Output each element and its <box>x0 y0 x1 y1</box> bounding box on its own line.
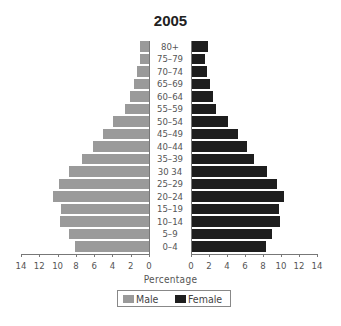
population-pyramid-chart: 2005 80+75–7970–7465–6960–6455–5950–5445… <box>0 0 341 326</box>
legend-label-female: Female <box>188 293 222 305</box>
bar-female <box>191 241 266 252</box>
x-tick <box>149 254 150 257</box>
bar-female <box>191 104 216 115</box>
age-group-label: 45–49 <box>149 128 191 140</box>
x-tick-label: 12 <box>289 260 309 271</box>
bar-male <box>69 166 149 177</box>
legend-label-male: Male <box>136 293 158 305</box>
x-tick <box>94 254 95 257</box>
bar-male <box>140 54 149 65</box>
bar-female <box>191 191 284 202</box>
bar-female <box>191 166 267 177</box>
x-tick <box>227 254 228 257</box>
zero-axis-line <box>191 41 192 254</box>
x-tick-label: 0 <box>181 260 201 271</box>
age-group-label: 80+ <box>149 41 191 53</box>
x-tick-label: 14 <box>11 260 31 271</box>
bar-male <box>69 229 149 240</box>
x-axis-label: Percentage <box>0 274 341 285</box>
bar-male <box>93 141 149 152</box>
x-tick-label: 4 <box>102 260 122 271</box>
bar-female <box>191 229 272 240</box>
x-tick-label: 8 <box>253 260 273 271</box>
age-group-label: 20–24 <box>149 191 191 203</box>
bar-male <box>60 216 149 227</box>
bar-male <box>130 91 149 102</box>
x-tick <box>58 254 59 257</box>
x-tick-label: 4 <box>217 260 237 271</box>
bar-male <box>59 179 149 190</box>
age-group-label: 30 34 <box>149 166 191 178</box>
age-group-label: 50–54 <box>149 116 191 128</box>
bar-female <box>191 116 228 127</box>
x-tick <box>281 254 282 257</box>
age-group-label: 15–19 <box>149 203 191 215</box>
bar-female <box>191 91 213 102</box>
bar-female <box>191 179 277 190</box>
bar-female <box>191 204 279 215</box>
x-tick <box>263 254 264 257</box>
x-tick <box>112 254 113 257</box>
bar-male <box>82 154 149 165</box>
age-group-label: 70–74 <box>149 66 191 78</box>
legend-item-female: Female <box>175 293 222 305</box>
bar-male <box>61 204 149 215</box>
bar-female <box>191 141 247 152</box>
x-tick <box>317 254 318 257</box>
female-swatch-icon <box>175 295 186 303</box>
bar-female <box>191 79 210 90</box>
x-tick-label: 10 <box>48 260 68 271</box>
zero-axis-line <box>149 41 150 254</box>
x-tick-label: 2 <box>121 260 141 271</box>
bar-female <box>191 154 254 165</box>
bar-male <box>137 66 149 77</box>
bar-female <box>191 66 207 77</box>
x-tick-label: 6 <box>235 260 255 271</box>
x-tick <box>209 254 210 257</box>
age-group-label: 0–4 <box>149 241 191 253</box>
x-tick-label: 0 <box>139 260 159 271</box>
age-group-label: 10–14 <box>149 216 191 228</box>
bar-female <box>191 41 208 52</box>
x-tick-label: 10 <box>271 260 291 271</box>
x-tick <box>245 254 246 257</box>
age-group-label: 60–64 <box>149 91 191 103</box>
x-tick <box>131 254 132 257</box>
legend-item-male: Male <box>123 293 158 305</box>
x-tick <box>21 254 22 257</box>
bar-female <box>191 54 205 65</box>
bar-male <box>75 241 149 252</box>
age-group-label: 5–9 <box>149 228 191 240</box>
bar-male <box>134 79 149 90</box>
bar-female <box>191 129 238 140</box>
age-group-label: 75–79 <box>149 53 191 65</box>
x-tick-label: 12 <box>29 260 49 271</box>
x-tick <box>76 254 77 257</box>
age-group-label: 40–44 <box>149 141 191 153</box>
x-tick-label: 8 <box>66 260 86 271</box>
x-tick-label: 6 <box>84 260 104 271</box>
age-group-label: 35–39 <box>149 153 191 165</box>
age-group-label: 25–29 <box>149 178 191 190</box>
male-swatch-icon <box>123 295 134 303</box>
x-tick-label: 14 <box>307 260 327 271</box>
bar-female <box>191 216 280 227</box>
bar-male <box>140 41 149 52</box>
x-tick-label: 2 <box>199 260 219 271</box>
bar-male <box>125 104 149 115</box>
legend: Male Female <box>117 290 231 307</box>
bar-male <box>113 116 149 127</box>
bar-male <box>103 129 149 140</box>
age-group-label: 55–59 <box>149 103 191 115</box>
chart-title: 2005 <box>0 12 341 29</box>
x-tick <box>191 254 192 257</box>
x-tick <box>299 254 300 257</box>
age-group-label: 65–69 <box>149 78 191 90</box>
bar-male <box>53 191 149 202</box>
x-tick <box>39 254 40 257</box>
